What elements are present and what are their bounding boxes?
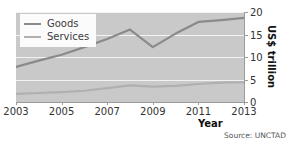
y-tick-20 [244, 12, 248, 13]
x-tick-label-2007: 2007 [94, 106, 119, 117]
legend-swatch-goods-icon [24, 23, 41, 25]
y-tick-label-20: 20 [250, 7, 263, 18]
x-tick-label-2003: 2003 [3, 106, 28, 117]
y-tick-10 [244, 57, 248, 58]
legend-label-services: Services [47, 30, 89, 43]
source-note: Source: UNCTAD [224, 131, 286, 140]
x-axis-line [16, 102, 244, 103]
legend-swatch-services-icon [24, 36, 41, 38]
legend-item-services: Services [24, 30, 89, 43]
y-tick-label-15: 15 [250, 29, 263, 40]
chart-legend: Goods Services [20, 14, 96, 47]
x-tick-2005 [62, 102, 63, 105]
x-tick-label-2011: 2011 [186, 106, 211, 117]
x-axis-title: Year [198, 118, 223, 129]
x-tick-label-2009: 2009 [140, 106, 165, 117]
caption-strip-cutoff [0, 146, 292, 152]
chart-figure: Goods Services 200320052007200920112013 … [0, 0, 292, 152]
line-services [16, 82, 244, 94]
y-tick-15 [244, 35, 248, 36]
y-tick-5 [244, 80, 248, 81]
y-tick-label-5: 5 [250, 74, 256, 85]
legend-label-goods: Goods [47, 17, 79, 30]
x-tick-2009 [153, 102, 154, 105]
y-tick-0 [244, 102, 248, 103]
x-tick-2011 [198, 102, 199, 105]
y-axis-title: US$ trillion [266, 12, 277, 102]
x-tick-label-2013: 2013 [231, 106, 256, 117]
x-tick-2003 [16, 102, 17, 105]
x-tick-2007 [107, 102, 108, 105]
legend-item-goods: Goods [24, 17, 89, 30]
x-tick-label-2005: 2005 [49, 106, 74, 117]
y-tick-label-0: 0 [250, 97, 256, 108]
y-tick-label-10: 10 [250, 52, 263, 63]
